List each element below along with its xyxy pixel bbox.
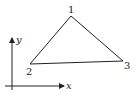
node-3-label: 3 (124, 60, 130, 71)
triangle (30, 16, 123, 64)
y-axis-label: y (15, 34, 22, 45)
node-2-label: 2 (26, 66, 32, 77)
node-1-label: 1 (68, 4, 74, 15)
triangle-diagram: 1 2 3 y x (0, 0, 140, 97)
x-axis-label: x (66, 80, 72, 91)
